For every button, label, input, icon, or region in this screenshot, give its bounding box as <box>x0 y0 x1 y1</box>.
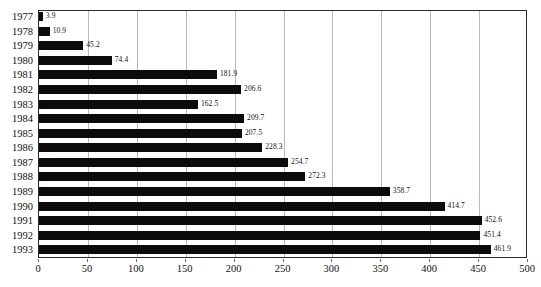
bar-row: 45.2 <box>38 39 527 54</box>
bar <box>39 12 43 21</box>
category-label: 1977 <box>12 10 33 25</box>
bar-series: 3.910.945.274.4181.9206.6162.5209.7207.5… <box>38 10 527 258</box>
bar-value-label: 10.9 <box>53 24 67 37</box>
category-label: 1979 <box>12 39 33 54</box>
bar-row: 461.9 <box>38 243 527 258</box>
bar <box>39 27 50 36</box>
bar-value-label: 3.9 <box>46 9 56 22</box>
category-label: 1986 <box>12 141 33 156</box>
category-label: 1991 <box>12 214 33 229</box>
category-label: 1983 <box>12 98 33 113</box>
bar-value-label: 181.9 <box>220 67 237 80</box>
bar-row: 3.9 <box>38 10 527 25</box>
category-label: 1985 <box>12 127 33 142</box>
bar <box>39 172 305 181</box>
bar-value-label: 228.3 <box>265 140 282 153</box>
axis-tick-label: 0 <box>35 262 40 276</box>
category-label: 1980 <box>12 54 33 69</box>
category-label: 1981 <box>12 68 33 83</box>
axis-tick-label: 500 <box>519 262 535 276</box>
axis-tick-label: 300 <box>324 262 340 276</box>
bar-chart: 1977197819791980198119821983198419851986… <box>0 0 541 287</box>
bar-row: 74.4 <box>38 54 527 69</box>
axis-tick-label: 200 <box>226 262 242 276</box>
category-label: 1978 <box>12 25 33 40</box>
bar <box>39 187 390 196</box>
bar <box>39 56 112 65</box>
bar-value-label: 461.9 <box>494 242 511 255</box>
bar-value-label: 451.4 <box>483 228 500 241</box>
bar-value-label: 358.7 <box>393 184 410 197</box>
bar <box>39 114 244 123</box>
category-label: 1992 <box>12 229 33 244</box>
bar-value-label: 206.6 <box>244 82 261 95</box>
bar <box>39 70 217 79</box>
bar-row: 209.7 <box>38 112 527 127</box>
bar <box>39 202 445 211</box>
bar-row: 414.7 <box>38 200 527 215</box>
bar-row: 358.7 <box>38 185 527 200</box>
bar <box>39 158 288 167</box>
axis-tick-label: 250 <box>275 262 291 276</box>
category-label: 1989 <box>12 185 33 200</box>
axis-tick-label: 50 <box>82 262 93 276</box>
bar-value-label: 74.4 <box>115 53 129 66</box>
bar-value-label: 272.3 <box>308 169 325 182</box>
bar <box>39 143 262 152</box>
bar-value-label: 162.5 <box>201 97 218 110</box>
category-label: 1982 <box>12 83 33 98</box>
bar-row: 206.6 <box>38 83 527 98</box>
bar-row: 10.9 <box>38 25 527 40</box>
bar-row: 451.4 <box>38 229 527 244</box>
bar-row: 254.7 <box>38 156 527 171</box>
bar-value-label: 207.5 <box>245 126 262 139</box>
category-label: 1990 <box>12 200 33 215</box>
value-axis: 050100150200250300350400450500 <box>0 259 541 283</box>
axis-tick-label: 350 <box>372 262 388 276</box>
category-axis-labels: 1977197819791980198119821983198419851986… <box>0 10 36 258</box>
bar <box>39 100 198 109</box>
axis-tick-label: 450 <box>470 262 486 276</box>
bar <box>39 85 241 94</box>
bar <box>39 41 83 50</box>
bar-row: 162.5 <box>38 98 527 113</box>
axis-tick-label: 400 <box>421 262 437 276</box>
bar-row: 272.3 <box>38 170 527 185</box>
bar <box>39 216 482 225</box>
bar-value-label: 254.7 <box>291 155 308 168</box>
bar-row: 228.3 <box>38 141 527 156</box>
category-label: 1988 <box>12 170 33 185</box>
bar-value-label: 209.7 <box>247 111 264 124</box>
bar-value-label: 414.7 <box>448 199 465 212</box>
category-label: 1987 <box>12 156 33 171</box>
bar <box>39 245 491 254</box>
bar-value-label: 45.2 <box>86 38 100 51</box>
category-label: 1984 <box>12 112 33 127</box>
bar-row: 452.6 <box>38 214 527 229</box>
category-label: 1993 <box>12 243 33 258</box>
bar <box>39 129 242 138</box>
axis-tick-label: 100 <box>128 262 144 276</box>
axis-tick-label: 150 <box>177 262 193 276</box>
bar <box>39 231 480 240</box>
bar-row: 181.9 <box>38 68 527 83</box>
bar-row: 207.5 <box>38 127 527 142</box>
bar-value-label: 452.6 <box>485 213 502 226</box>
